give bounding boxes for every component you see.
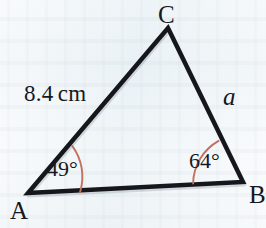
angle-label-a: 49° <box>47 158 78 180</box>
triangle-diagram-canvas: C A B 49° 64° 8.4cm a <box>0 0 266 228</box>
vertex-label-b: B <box>249 182 266 207</box>
angle-label-b: 64° <box>189 150 220 172</box>
vertex-label-c: C <box>158 2 175 27</box>
side-label-ac: 8.4cm <box>24 82 86 105</box>
side-length-unit: cm <box>58 81 87 106</box>
side-length-value: 8.4 <box>24 81 54 106</box>
triangle-svg <box>0 0 266 228</box>
vertex-label-a: A <box>10 198 28 223</box>
side-label-bc: a <box>223 84 236 109</box>
